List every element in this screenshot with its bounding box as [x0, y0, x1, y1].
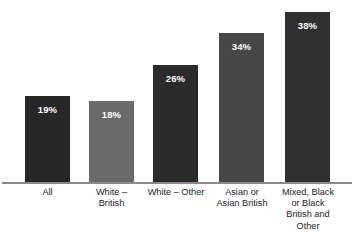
bar-group-all: 19% — [25, 0, 70, 183]
bar-group-asian-or-asian-british: 34% — [219, 0, 264, 183]
bar-group-mixed-black-other: 38% — [285, 0, 330, 183]
bar-all[interactable]: 19% — [25, 96, 70, 183]
category-label-mixed-black-other: Mixed, Black or Black British and Other — [269, 187, 347, 232]
bar-group-white-british: 18% — [89, 0, 134, 183]
bar-value-label-all: 19% — [25, 105, 70, 115]
bar-value-label-mixed-black-other: 38% — [285, 21, 330, 31]
bar-value-label-asian-or-asian-british: 34% — [219, 42, 264, 52]
bar-white-other[interactable]: 26% — [153, 65, 198, 183]
bar-asian-or-asian-british[interactable]: 34% — [219, 33, 264, 183]
x-axis-line — [2, 182, 352, 184]
x-axis-category-labels: All White – British White – Other Asian … — [0, 187, 354, 243]
bar-mixed-black-other[interactable]: 38% — [285, 12, 330, 183]
bar-group-white-other: 26% — [153, 0, 198, 183]
bar-value-label-white-other: 26% — [153, 74, 198, 84]
bar-chart: 19% 18% 26% 34% 38% All White – Brit — [0, 0, 354, 243]
bar-white-british[interactable]: 18% — [89, 101, 134, 183]
bar-value-label-white-british: 18% — [89, 110, 134, 120]
plot-area: 19% 18% 26% 34% 38% — [0, 0, 354, 183]
